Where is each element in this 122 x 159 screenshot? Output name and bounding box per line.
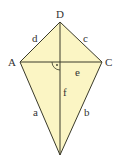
vertex-label-c: C [105,56,112,68]
side-label-c: c [83,32,88,44]
side-label-a: a [33,106,38,118]
diagonal-label-f: f [63,86,67,98]
kite-diagram: D A C d c a b e f [0,0,122,159]
diagonal-label-e: e [75,66,80,78]
vertex-label-d: D [56,8,64,20]
side-label-d: d [32,32,38,44]
vertex-label-a: A [8,56,16,68]
side-label-b: b [84,106,90,118]
right-angle-dot [56,64,58,66]
kite-svg: D A C d c a b e f [0,0,122,159]
